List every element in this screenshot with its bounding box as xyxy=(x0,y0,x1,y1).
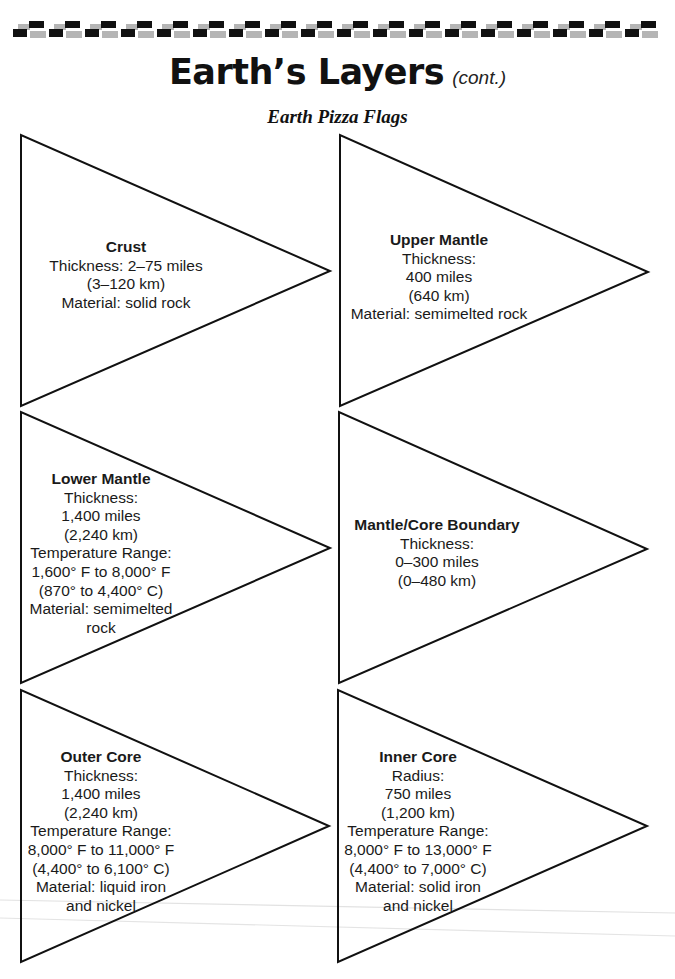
flag-detail: 8,000° F to 13,000° F xyxy=(344,841,492,860)
flag-detail: Thickness: xyxy=(351,250,528,269)
flag-detail: (4,400° to 6,100° C) xyxy=(28,860,175,879)
flag-detail: Thickness: xyxy=(354,535,519,554)
flag-detail: 1,400 miles xyxy=(30,507,173,526)
flag-detail: Temperature Range: xyxy=(28,822,175,841)
flag-detail: (2,240 km) xyxy=(30,526,173,545)
flag-detail: Thickness: xyxy=(30,489,173,508)
flag-detail: 400 miles xyxy=(351,268,528,287)
flag-detail: (4,400° to 7,000° C) xyxy=(344,860,492,879)
flag-title: Outer Core xyxy=(28,748,175,767)
flag-detail: Thickness: 2–75 miles xyxy=(49,257,202,276)
flag-title: Crust xyxy=(49,238,202,257)
flag-detail: Material: liquid iron xyxy=(28,878,175,897)
flag-detail: rock xyxy=(30,619,173,638)
flag-detail: Radius: xyxy=(344,767,492,786)
flag-detail: Temperature Range: xyxy=(30,544,173,563)
flag-detail: 750 miles xyxy=(344,785,492,804)
flag-detail: (640 km) xyxy=(351,287,528,306)
flag-detail: (0–480 km) xyxy=(354,572,519,591)
flag-detail: Temperature Range: xyxy=(344,822,492,841)
flag-crust: Crust Thickness: 2–75 miles (3–120 km) M… xyxy=(49,238,202,312)
flag-detail: (1,200 km) xyxy=(344,804,492,823)
flag-lower-mantle: Lower Mantle Thickness: 1,400 miles (2,2… xyxy=(30,470,173,637)
flag-detail: 8,000° F to 11,000° F xyxy=(28,841,175,860)
flag-detail: Material: semimelted rock xyxy=(351,305,528,324)
flag-detail: (3–120 km) xyxy=(49,275,202,294)
flag-detail: (2,240 km) xyxy=(28,804,175,823)
flag-detail: Material: semimelted xyxy=(30,600,173,619)
flag-detail: 1,600° F to 8,000° F xyxy=(30,563,173,582)
flag-detail: Thickness: xyxy=(28,767,175,786)
flag-inner-core: Inner Core Radius: 750 miles (1,200 km) … xyxy=(344,748,492,915)
flag-detail: Material: solid iron xyxy=(344,878,492,897)
flag-title: Upper Mantle xyxy=(351,231,528,250)
flag-detail: 0–300 miles xyxy=(354,553,519,572)
flag-title: Mantle/Core Boundary xyxy=(354,516,519,535)
flag-mantle-core-boundary: Mantle/Core Boundary Thickness: 0–300 mi… xyxy=(354,516,519,590)
flag-detail: and nickel xyxy=(28,897,175,916)
flag-detail: Material: solid rock xyxy=(49,294,202,313)
flag-detail: and nickel xyxy=(344,897,492,916)
flag-detail: (870° to 4,400° C) xyxy=(30,582,173,601)
flag-outer-core: Outer Core Thickness: 1,400 miles (2,240… xyxy=(28,748,175,915)
flag-title: Inner Core xyxy=(344,748,492,767)
flag-title: Lower Mantle xyxy=(30,470,173,489)
flag-upper-mantle: Upper Mantle Thickness: 400 miles (640 k… xyxy=(351,231,528,324)
flag-detail: 1,400 miles xyxy=(28,785,175,804)
